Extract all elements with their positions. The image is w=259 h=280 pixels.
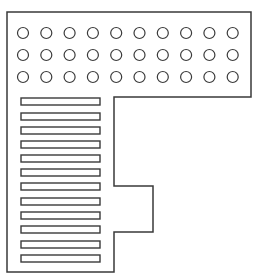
circle-pad bbox=[181, 50, 192, 61]
circle-pad bbox=[87, 28, 98, 39]
circle-pad bbox=[111, 72, 122, 83]
circle-pad bbox=[87, 50, 98, 61]
circle-pad bbox=[134, 28, 145, 39]
circle-pad bbox=[227, 72, 238, 83]
circle-pad bbox=[18, 50, 29, 61]
circle-pad bbox=[18, 72, 29, 83]
circle-pad bbox=[134, 72, 145, 83]
bar-pad bbox=[21, 127, 100, 134]
circle-pad bbox=[157, 72, 168, 83]
bar-pad bbox=[21, 113, 100, 120]
footprint-diagram bbox=[0, 0, 259, 280]
bar-pad bbox=[21, 226, 100, 233]
circle-pad bbox=[64, 72, 75, 83]
circle-pad bbox=[41, 50, 52, 61]
bar-pad bbox=[21, 198, 100, 205]
circle-pad-grid bbox=[18, 28, 239, 83]
circle-pad bbox=[64, 50, 75, 61]
circle-pad bbox=[41, 72, 52, 83]
circle-pad bbox=[157, 50, 168, 61]
bar-pad bbox=[21, 255, 100, 262]
circle-pad bbox=[111, 50, 122, 61]
bar-pad bbox=[21, 241, 100, 248]
circle-pad bbox=[41, 28, 52, 39]
bar-pad bbox=[21, 212, 100, 219]
bar-pad-stack bbox=[21, 98, 100, 262]
bar-pad bbox=[21, 183, 100, 190]
circle-pad bbox=[181, 72, 192, 83]
bar-pad bbox=[21, 141, 100, 148]
circle-pad bbox=[87, 72, 98, 83]
circle-pad bbox=[227, 28, 238, 39]
circle-pad bbox=[134, 50, 145, 61]
circle-pad bbox=[157, 28, 168, 39]
circle-pad bbox=[111, 28, 122, 39]
bar-pad bbox=[21, 98, 100, 105]
bar-pad bbox=[21, 155, 100, 162]
circle-pad bbox=[204, 28, 215, 39]
circle-pad bbox=[18, 28, 29, 39]
circle-pad bbox=[204, 50, 215, 61]
bar-pad bbox=[21, 169, 100, 176]
circle-pad bbox=[204, 72, 215, 83]
circle-pad bbox=[181, 28, 192, 39]
circle-pad bbox=[64, 28, 75, 39]
circle-pad bbox=[227, 50, 238, 61]
